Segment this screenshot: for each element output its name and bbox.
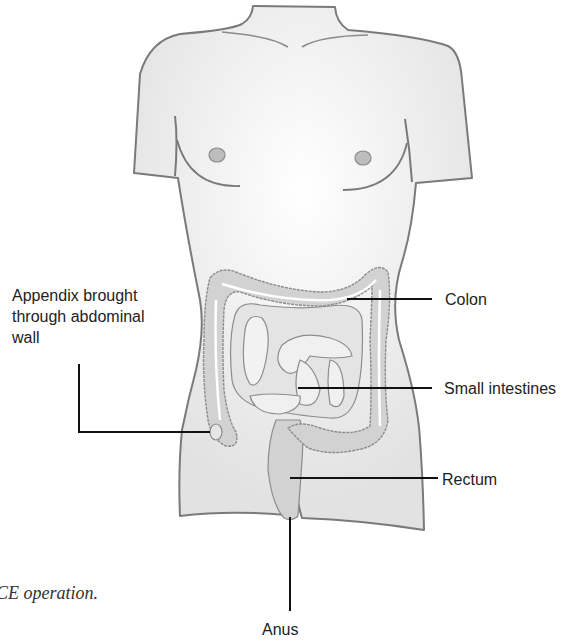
label-appendix: Appendix brought through abdominal wall	[12, 285, 145, 348]
label-small-intestines: Small intestines	[444, 378, 556, 399]
label-colon: Colon	[445, 289, 487, 310]
label-appendix-line-3: wall	[12, 327, 145, 348]
nipple-left-icon	[209, 148, 225, 162]
label-appendix-line-2: through abdominal	[12, 306, 145, 327]
figure-caption: CE operation.	[0, 583, 98, 604]
nipple-right-icon	[355, 151, 371, 165]
small-intestines-shape	[231, 304, 363, 418]
label-rectum: Rectum	[442, 469, 497, 490]
label-anus: Anus	[262, 619, 298, 640]
label-appendix-line-1: Appendix brought	[12, 285, 145, 306]
